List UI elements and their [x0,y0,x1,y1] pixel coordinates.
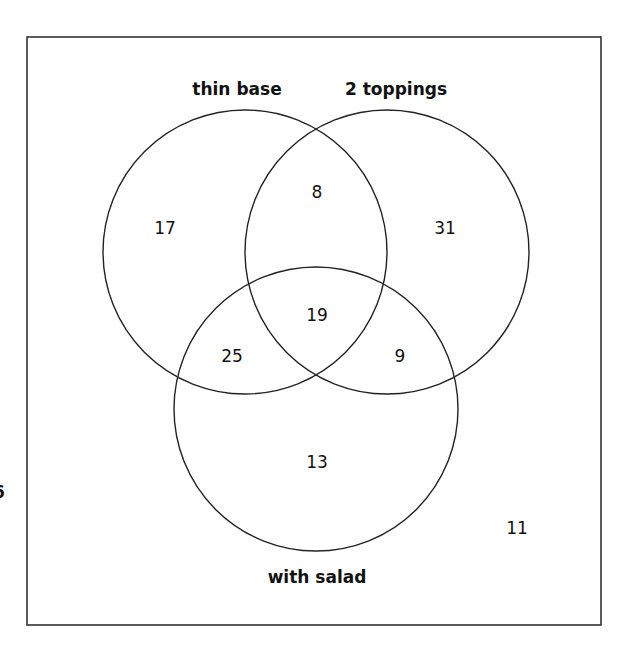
count-only-2-toppings: 31 [434,218,456,238]
count-none: 11 [506,518,528,538]
label-with-salad: with salad [268,567,367,587]
count-thin-base-and-2-toppings: 8 [312,182,323,202]
venn-diagram: 6 thin base 2 toppings with salad 17 31 … [0,0,624,647]
count-only-thin-base: 17 [154,218,176,238]
count-all-three: 19 [306,305,328,325]
clipped-left-glyph: 6 [0,482,5,502]
count-thin-base-and-with-salad: 25 [221,346,243,366]
label-2-toppings: 2 toppings [345,79,447,99]
count-2-toppings-and-with-salad: 9 [395,346,406,366]
count-only-with-salad: 13 [306,452,328,472]
label-thin-base: thin base [192,79,281,99]
